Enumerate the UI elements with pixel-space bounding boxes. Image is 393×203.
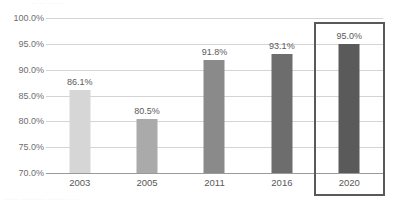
- cropped-title-sliver: .... .... ..........: [32, 0, 64, 5]
- bar-value-label-2016: 93.1%: [269, 41, 295, 51]
- x-axis-tick-label-2020: 2020: [316, 176, 383, 190]
- y-axis-tick-label: 95.0%: [0, 39, 44, 49]
- x-axis-tick-label-2005: 2005: [113, 176, 180, 190]
- bar-value-label-2020: 95.0%: [337, 31, 363, 41]
- y-axis-tick-label: 100.0%: [0, 13, 44, 23]
- bar-2016[interactable]: [271, 54, 292, 173]
- bar-2011[interactable]: [204, 60, 225, 173]
- y-axis-tick-label: 80.0%: [0, 116, 44, 126]
- y-axis-tick-label: 70.0%: [0, 168, 44, 178]
- bar-value-label-2003: 86.1%: [67, 77, 93, 87]
- x-axis-tick-label-2003: 2003: [46, 176, 113, 190]
- bar-2020[interactable]: [339, 44, 360, 173]
- bar-value-label-2011: 91.8%: [202, 47, 228, 57]
- bar-slot: 86.1%: [46, 18, 113, 173]
- bar-chart: .... .... .......... 70.0%75.0%80.0%85.0…: [0, 0, 393, 203]
- x-axis-tick-label-2011: 2011: [181, 176, 248, 190]
- bar-slot: 93.1%: [248, 18, 315, 173]
- x-axis: 20032005201120162020: [46, 176, 383, 194]
- y-axis-tick-label: 75.0%: [0, 142, 44, 152]
- bar-2003[interactable]: [69, 90, 90, 173]
- cropped-caption-sliver: ........ ............. ......... .......: [4, 194, 79, 201]
- bars-container: 86.1%80.5%91.8%93.1%95.0%: [46, 18, 383, 173]
- bar-slot: 91.8%: [181, 18, 248, 173]
- gridline-70: [46, 173, 383, 174]
- y-axis-tick-label: 90.0%: [0, 65, 44, 75]
- y-axis: 70.0%75.0%80.0%85.0%90.0%95.0%100.0%: [0, 18, 44, 173]
- y-axis-tick-label: 85.0%: [0, 91, 44, 101]
- bar-slot: 80.5%: [113, 18, 180, 173]
- x-axis-tick-label-2016: 2016: [248, 176, 315, 190]
- bar-value-label-2005: 80.5%: [134, 106, 160, 116]
- bar-slot: 95.0%: [316, 18, 383, 173]
- bar-2005[interactable]: [137, 119, 158, 173]
